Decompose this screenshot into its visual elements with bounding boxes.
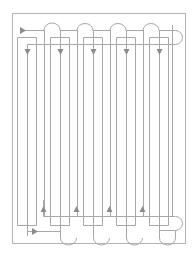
flow-arrows — [20, 27, 163, 235]
up-arrow-icon — [140, 206, 146, 212]
up-arrow-icon — [41, 206, 47, 212]
pipe-layout-diagram — [0, 0, 195, 257]
outlet-arrow-icon — [32, 228, 38, 235]
down-arrow-icon — [58, 49, 64, 55]
inlet-arrow-icon — [20, 27, 26, 34]
down-arrow-icon — [25, 49, 31, 55]
up-arrow-icon — [107, 206, 113, 212]
up-arrow-icon — [74, 206, 80, 212]
down-arrow-icon — [124, 49, 130, 55]
down-arrow-icon — [157, 49, 163, 55]
down-arrow-icon — [91, 49, 97, 55]
supply-pipe — [20, 23, 183, 238]
